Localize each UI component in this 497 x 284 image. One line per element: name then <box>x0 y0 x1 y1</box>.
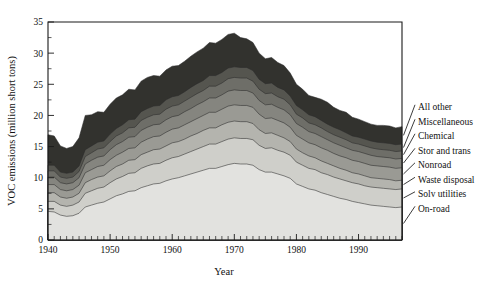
x-tick-label-1950: 1950 <box>101 245 120 255</box>
legend-label-on-road: On-road <box>418 204 450 214</box>
legend-label-solv-utilities: Solv utilities <box>418 189 467 199</box>
y-tick-label-10: 10 <box>34 173 44 183</box>
legend-leader-line-solv-utilities <box>404 192 416 198</box>
voc-emissions-stacked-area-chart: 194019501960197019801990 05101520253035 … <box>0 0 497 284</box>
legend-leader-line-on-road <box>404 206 416 223</box>
legend-leader-line-waste-disposal <box>404 177 416 184</box>
legend-leader-line-nonroad <box>404 163 416 174</box>
legend: All otherMiscellaneousChemicalStor and t… <box>404 102 475 223</box>
x-tick-label-1980: 1980 <box>287 245 306 255</box>
y-tick-label-30: 30 <box>34 49 44 59</box>
x-tick-label-1970: 1970 <box>225 245 244 255</box>
figure-canvas: 194019501960197019801990 05101520253035 … <box>0 0 497 284</box>
legend-leader-line-miscellaneous <box>404 119 416 147</box>
y-axis-tick-labels: 05101520253035 <box>34 17 44 245</box>
legend-label-all-other: All other <box>418 102 453 112</box>
legend-leader-line-all-other <box>404 105 416 136</box>
legend-label-chemical: Chemical <box>418 131 455 141</box>
legend-leader-line-stor-and-trans <box>404 148 416 163</box>
legend-label-miscellaneous: Miscellaneous <box>418 117 473 127</box>
y-tick-label-15: 15 <box>34 142 44 152</box>
x-tick-label-1990: 1990 <box>349 245 368 255</box>
y-tick-label-0: 0 <box>38 235 43 245</box>
x-axis-tick-labels: 194019501960197019801990 <box>39 245 369 255</box>
legend-label-stor-and-trans: Stor and trans <box>418 146 471 156</box>
legend-label-nonroad: Nonroad <box>418 160 451 170</box>
x-tick-label-1960: 1960 <box>163 245 182 255</box>
y-tick-label-5: 5 <box>38 204 43 214</box>
legend-label-waste-disposal: Waste disposal <box>418 175 475 185</box>
x-tick-label-1940: 1940 <box>39 245 58 255</box>
stacked-area-bands <box>48 33 402 240</box>
y-tick-label-20: 20 <box>34 111 44 121</box>
y-tick-label-25: 25 <box>34 80 44 90</box>
x-axis-title: Year <box>214 266 234 277</box>
y-tick-label-35: 35 <box>34 17 44 27</box>
y-axis-title: VOC emissions (million short tons) <box>6 56 18 206</box>
